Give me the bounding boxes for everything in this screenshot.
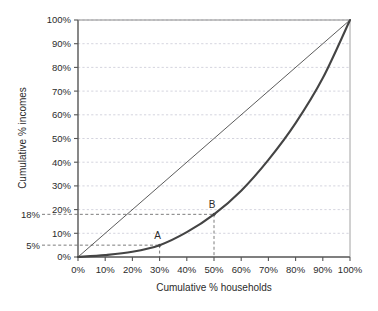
y-axis-tick-label: 50% [52, 133, 72, 144]
x-axis-title: Cumulative % households [156, 282, 272, 293]
annotation-label-b: B [209, 199, 216, 210]
x-axis-tick-label: 70% [259, 264, 279, 275]
y-axis-tick-label: 20% [52, 204, 72, 215]
x-axis-tick-label: 30% [150, 264, 170, 275]
annotation-point-marker [158, 244, 161, 247]
x-axis-tick-label: 50% [204, 264, 224, 275]
chart-canvas: 0%10%20%30%40%50%60%70%80%90%100% 0%10%2… [0, 0, 378, 311]
lorenz-curve-chart: 0%10%20%30%40%50%60%70%80%90%100% 0%10%2… [0, 0, 378, 311]
x-axis-tick-label: 80% [286, 264, 306, 275]
y-axis-tick-label: 40% [52, 157, 72, 168]
y-axis-tick-label: 100% [47, 14, 72, 25]
y-axis-tick-label: 80% [52, 62, 72, 73]
y-axis-tick-label: 90% [52, 38, 72, 49]
annotation-point-marker [213, 213, 216, 216]
y-axis-tick-label: 10% [52, 228, 72, 239]
x-axis-tick-label: 90% [313, 264, 333, 275]
x-axis-tick-label: 100% [338, 264, 363, 275]
y-axis-tick-label: 30% [52, 180, 72, 191]
x-axis-tick-label: 0% [71, 264, 85, 275]
annotation-label-a: A [154, 230, 161, 241]
x-axis-tick-label: 40% [177, 264, 197, 275]
y-axis-tick-label: 70% [52, 86, 72, 97]
y-axis-extra-tick-label: 5% [26, 240, 40, 251]
y-axis-tick-label: 60% [52, 109, 72, 120]
x-axis-tick-label: 10% [96, 264, 116, 275]
x-axis-tick-label: 60% [232, 264, 252, 275]
y-axis-title: Cumulative % incomes [17, 87, 28, 189]
x-axis-tick-label: 20% [123, 264, 143, 275]
y-axis-tick-label: 0% [57, 251, 71, 262]
y-axis-extra-tick-label: 18% [21, 209, 41, 220]
